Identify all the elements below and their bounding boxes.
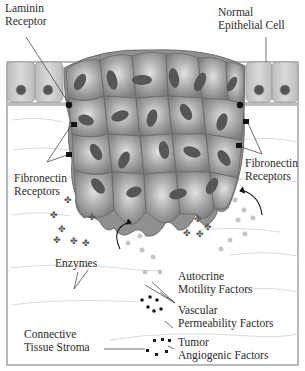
tumor-mass [64, 50, 245, 236]
label-fibronectin-receptors-right: Fibronectin Receptors [245, 157, 298, 183]
tumor-invasion-diagram: ✤✤ ✤✤ ✤✤ ✤✤ ✤✤ ✤ Laminin Receptor Normal… [0, 0, 305, 371]
label-line: Receptors [245, 170, 298, 183]
label-line: Receptors [14, 185, 67, 198]
label-line: Permeability Factors [178, 317, 274, 330]
label-line: Motility Factors [178, 283, 252, 296]
svg-text:✤: ✤ [50, 210, 58, 220]
fibronectin-receptor-left-2 [66, 152, 72, 157]
svg-text:✤: ✤ [204, 222, 212, 232]
label-line: Normal [218, 6, 285, 19]
label-fibronectin-receptors-left: Fibronectin Receptors [14, 172, 67, 198]
label-line: Connective [24, 328, 90, 341]
label-autocrine-motility-factors: Autocrine Motility Factors [178, 270, 252, 296]
svg-text:✤: ✤ [82, 238, 90, 248]
svg-text:✤: ✤ [88, 212, 96, 222]
label-enzymes: Enzymes [55, 257, 97, 270]
label-laminin-receptor: Laminin Receptor [5, 2, 47, 28]
label-tumor-angiogenic-factors: Tumor Angiogenic Factors [178, 336, 268, 362]
label-line: Receptor [5, 15, 47, 28]
laminin-receptor-left [66, 102, 72, 108]
svg-text:✤: ✤ [194, 214, 202, 224]
svg-text:✤: ✤ [70, 236, 78, 246]
label-vascular-permeability-factors: Vascular Permeability Factors [178, 304, 274, 330]
label-line: Epithelial Cell [218, 19, 285, 32]
label-line: Fibronectin [245, 157, 298, 170]
svg-text:✤: ✤ [183, 228, 191, 238]
label-line: Fibronectin [14, 172, 67, 185]
label-line: Angiogenic Factors [178, 349, 268, 362]
label-line: Autocrine [178, 270, 252, 283]
label-line: Tumor [178, 336, 268, 349]
label-line: Vascular [178, 304, 274, 317]
laminin-receptor-right [237, 102, 243, 108]
label-line: Tissue Stroma [24, 341, 90, 354]
svg-text:✤: ✤ [53, 235, 61, 245]
label-line: Laminin [5, 2, 47, 15]
label-normal-epithelial-cell: Normal Epithelial Cell [218, 6, 285, 32]
label-connective-tissue-stroma: Connective Tissue Stroma [24, 328, 90, 354]
svg-text:✤: ✤ [196, 229, 204, 239]
svg-text:✤: ✤ [58, 224, 66, 234]
